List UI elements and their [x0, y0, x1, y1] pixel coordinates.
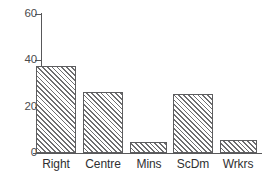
y-tick-label-60: 60: [0, 8, 37, 20]
y-tick-label-20: 20: [0, 101, 37, 113]
bar-wrkrs: [220, 140, 257, 153]
y-tick-label-40: 40: [0, 54, 37, 66]
x-tick-label-wrkrs: Wrkrs: [212, 157, 264, 171]
bar-mins: [130, 142, 167, 153]
bar-chart: 60 40 20 0 Right Centre Mins ScDm Wrkrs: [0, 0, 271, 185]
x-tick-label-centre: Centre: [77, 157, 129, 171]
x-axis-line: [33, 153, 262, 154]
x-tick-label-right: Right: [30, 157, 82, 171]
bar-scdm: [173, 94, 213, 153]
bar-right: [36, 66, 76, 153]
bar-centre: [83, 92, 123, 153]
